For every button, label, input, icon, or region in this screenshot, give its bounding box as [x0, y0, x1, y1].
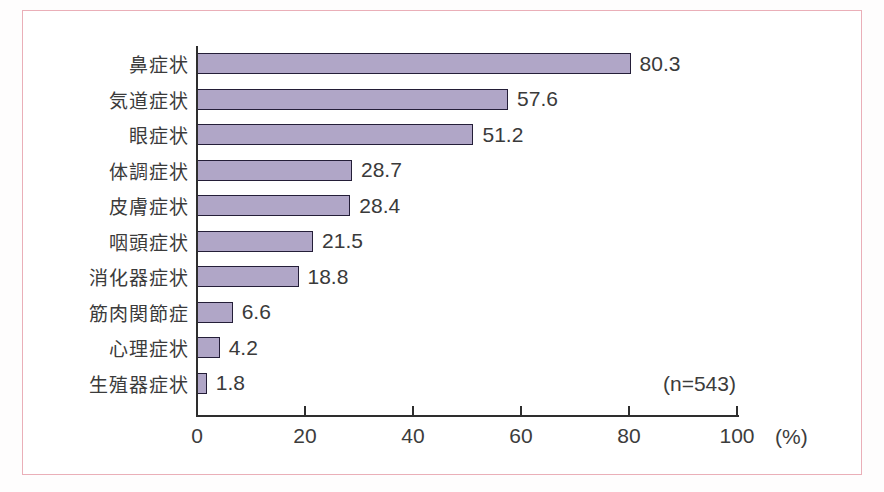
bar [197, 337, 220, 358]
bar-row: 心理症状4.2 [23, 330, 861, 366]
value-label: 80.3 [640, 52, 681, 76]
value-label: 51.2 [482, 123, 523, 147]
x-tick-label: 20 [275, 424, 335, 448]
x-tick-label: 100 [707, 424, 767, 448]
bar [197, 231, 313, 252]
bar [197, 373, 207, 394]
bar-row: 咽頭症状21.5 [23, 224, 861, 260]
bar-row: 消化器症状18.8 [23, 259, 861, 295]
bar [197, 195, 350, 216]
category-label: 消化器症状 [23, 263, 189, 290]
x-tick-mark [412, 406, 414, 416]
value-label: 28.4 [359, 194, 400, 218]
value-label: 28.7 [361, 158, 402, 182]
category-label: 咽頭症状 [23, 228, 189, 255]
value-label: 21.5 [322, 229, 363, 253]
x-tick-mark [520, 406, 522, 416]
bar [197, 124, 473, 145]
x-tick-mark [628, 406, 630, 416]
bar [197, 302, 233, 323]
bar [197, 160, 352, 181]
bar-row: 体調症状28.7 [23, 153, 861, 189]
x-axis-unit-label: (%) [775, 425, 808, 449]
x-tick-label: 80 [599, 424, 659, 448]
bar-row: 鼻症状80.3 [23, 46, 861, 82]
bar [197, 89, 508, 110]
category-label: 生殖器症状 [23, 370, 189, 397]
bar [197, 53, 631, 74]
x-tick-mark [736, 406, 738, 416]
category-label: 気道症状 [23, 86, 189, 113]
bar-chart: 鼻症状80.3気道症状57.6眼症状51.2体調症状28.7皮膚症状28.4咽頭… [23, 11, 861, 474]
x-axis-line [196, 415, 739, 417]
category-label: 体調症状 [23, 157, 189, 184]
figure-canvas: 鼻症状80.3気道症状57.6眼症状51.2体調症状28.7皮膚症状28.4咽頭… [0, 0, 884, 492]
x-tick-label: 40 [383, 424, 443, 448]
x-tick-mark [304, 406, 306, 416]
chart-frame: 鼻症状80.3気道症状57.6眼症状51.2体調症状28.7皮膚症状28.4咽頭… [22, 10, 862, 475]
category-label: 眼症状 [23, 121, 189, 148]
bar-row: 皮膚症状28.4 [23, 188, 861, 224]
bar [197, 266, 299, 287]
category-label: 筋肉関節症 [23, 299, 189, 326]
category-label: 鼻症状 [23, 50, 189, 77]
y-axis-line [196, 46, 198, 417]
value-label: 18.8 [308, 265, 349, 289]
bar-row: 筋肉関節症6.6 [23, 295, 861, 331]
category-label: 心理症状 [23, 334, 189, 361]
bar-row: 眼症状51.2 [23, 117, 861, 153]
value-label: 57.6 [517, 87, 558, 111]
x-tick-label: 0 [167, 424, 227, 448]
category-label: 皮膚症状 [23, 192, 189, 219]
value-label: 6.6 [242, 300, 271, 324]
x-tick-label: 60 [491, 424, 551, 448]
value-label: 4.2 [229, 336, 258, 360]
sample-size-annotation: (n=543) [663, 372, 736, 396]
bar-row: 気道症状57.6 [23, 82, 861, 118]
value-label: 1.8 [216, 371, 245, 395]
